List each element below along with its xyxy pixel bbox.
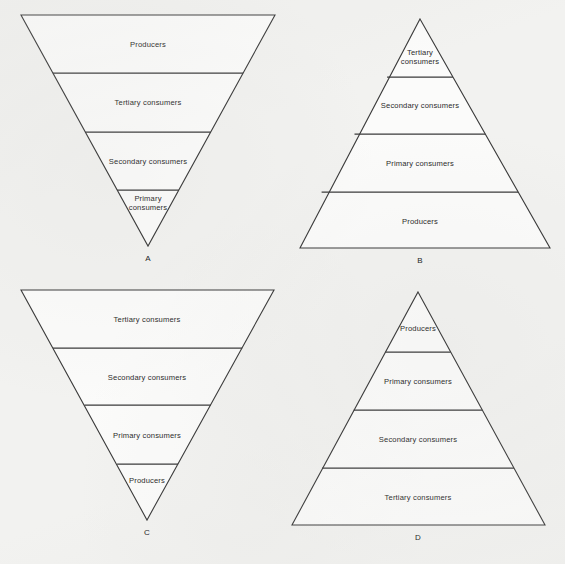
pyramid-a-tier-3-label: Secondary consumers [109, 157, 187, 166]
pyramid-c-tier-3-label: Primary consumers [113, 431, 181, 440]
pyramid-a-tier-4-label-line-2: consumers [129, 203, 168, 212]
pyramid-b-tier-3-label: Primary consumers [386, 159, 454, 168]
pyramid-c-tier-2-label: Secondary consumers [108, 373, 186, 382]
pyramid-c-tier-1-label: Tertiary consumers [114, 315, 181, 324]
pyramid-b-tier-1-label-line-2: consumers [401, 57, 440, 66]
pyramid-c-tier-4-label: Producers [129, 476, 165, 485]
pyramid-c: Tertiary consumers Secondary consumers P… [21, 290, 274, 537]
pyramid-d-tier-2-label: Primary consumers [384, 377, 452, 386]
pyramid-a-tier-2-label: Tertiary consumers [115, 98, 182, 107]
pyramid-a-tier-1-label: Producers [130, 40, 166, 49]
ecological-pyramids-figure: Producers Tertiary consumers Secondary c… [0, 0, 565, 564]
pyramid-a: Producers Tertiary consumers Secondary c… [21, 15, 275, 263]
pyramid-b-tier-2-label: Secondary consumers [381, 101, 459, 110]
pyramid-b-tier-4-label: Producers [402, 217, 438, 226]
pyramid-d: Producers Primary consumers Secondary co… [292, 292, 545, 542]
pyramid-d-caption: D [415, 533, 421, 542]
pyramid-b-caption: B [417, 256, 423, 265]
pyramid-d-tier-3-label: Secondary consumers [379, 435, 457, 444]
pyramid-a-caption: A [145, 254, 151, 263]
pyramid-b: Tertiary consumers Secondary consumers P… [300, 19, 550, 265]
pyramid-d-tier-4-label: Tertiary consumers [385, 493, 452, 502]
pyramid-b-tier-1-label-line-1: Tertiary [407, 48, 433, 57]
pyramids-svg: Producers Tertiary consumers Secondary c… [0, 0, 565, 564]
pyramid-d-tier-1-label: Producers [400, 324, 436, 333]
pyramid-c-caption: C [144, 528, 150, 537]
pyramid-a-tier-4-label-line-1: Primary [134, 194, 161, 203]
